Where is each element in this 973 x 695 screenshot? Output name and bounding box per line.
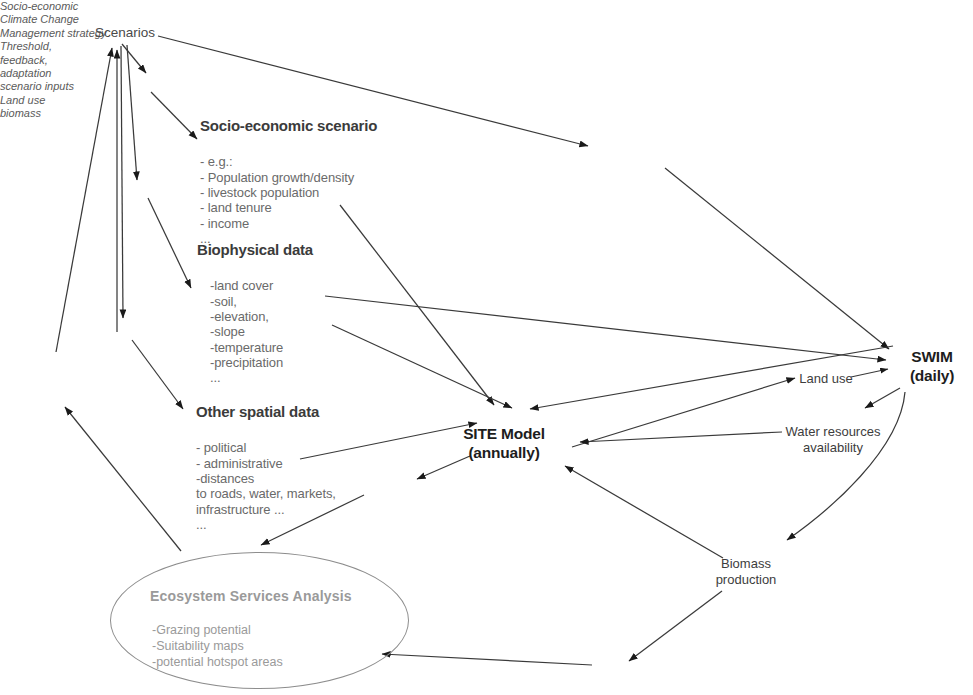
- edge-ecosystem-to-threshold: [65, 407, 181, 551]
- edge-scenarios-to-climate: [127, 45, 137, 180]
- node-water-resources-availability[interactable]: Water resources availability: [782, 424, 884, 455]
- edge-swim-to-biomass-production: [787, 392, 905, 540]
- edge-land-use-right-to-swim: [851, 369, 888, 377]
- edge-biomass-to-ecosystem: [382, 654, 592, 665]
- edge-scenario-inputs-to-swim: [665, 168, 889, 349]
- edge-threshold-to-scenarios: [56, 48, 112, 352]
- diagram-canvas: Scenarios Socio-economic scenario - e.g.…: [0, 0, 973, 695]
- node-site-model[interactable]: SITE Model (annually): [438, 425, 570, 462]
- edge-climate-to-biophysical: [148, 198, 191, 288]
- edge-biomass-production-to-site: [565, 466, 723, 558]
- edge-biophysical-to-swim: [325, 296, 886, 360]
- node-swim-model[interactable]: SWIM (daily): [893, 348, 971, 385]
- node-other-spatial-data[interactable]: Other spatial data - political - adminis…: [196, 384, 411, 551]
- node-socio-economic-scenario-title: Socio-economic scenario: [200, 117, 430, 135]
- node-other-spatial-data-title: Other spatial data: [196, 403, 411, 421]
- edge-management-to-other-spatial: [132, 340, 183, 409]
- node-other-spatial-data-items: - political - administrative -distances …: [196, 440, 411, 532]
- edge-water-to-site: [580, 432, 782, 442]
- node-ecosystem-services-items: -Grazing potential -Suitability maps -po…: [152, 622, 283, 670]
- edge-swim-to-water-resources: [865, 388, 900, 408]
- node-biomass-production[interactable]: Biomass production: [713, 556, 779, 587]
- edge-scenarios-to-socio: [122, 44, 146, 73]
- edge-scenarios-to-management: [121, 46, 123, 318]
- node-biophysical-data[interactable]: Biophysical data -land cover -soil, -ele…: [197, 222, 407, 405]
- node-biophysical-data-items: -land cover -soil, -elevation, -slope -t…: [197, 278, 407, 385]
- node-land-use-right[interactable]: Land use: [797, 371, 855, 387]
- edge-socio-to-block: [151, 92, 197, 139]
- node-scenarios[interactable]: Scenarios: [95, 25, 155, 41]
- node-ecosystem-services-title: Ecosystem Services Analysis: [150, 588, 352, 604]
- edge-biomass-production-to-biomass: [629, 591, 722, 661]
- node-biophysical-data-title: Biophysical data: [197, 241, 407, 259]
